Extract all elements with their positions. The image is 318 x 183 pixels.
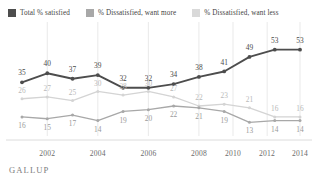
data-label: 23 [220, 92, 227, 100]
legend-label-total-satisfied: Total % satisfied [20, 9, 70, 18]
data-label: 39 [94, 62, 101, 70]
series-point [299, 115, 302, 118]
data-label: 21 [195, 113, 202, 121]
series-point [273, 115, 276, 118]
data-label: 14 [296, 126, 303, 134]
series-point [96, 90, 99, 93]
source-label: GALLUP [9, 165, 50, 175]
series-point [248, 106, 251, 109]
series-point [21, 115, 24, 118]
legend-label-want-more: % Dissatisfied, want more [98, 9, 176, 18]
legend-item-total-satisfied: Total % satisfied [8, 9, 70, 18]
x-tick-label: 2014 [292, 149, 308, 158]
series-line [22, 50, 300, 88]
series-point [71, 114, 74, 117]
series-point [222, 70, 226, 74]
data-label: 16 [18, 122, 25, 130]
data-label: 25 [69, 89, 76, 97]
data-label: 22 [195, 94, 202, 102]
x-tick-label: 2010 [225, 149, 241, 158]
data-label: 27 [44, 85, 51, 93]
data-label: 14 [271, 126, 278, 134]
legend-swatch-want-less [192, 9, 200, 17]
series-line [22, 91, 300, 116]
data-label: 19 [119, 117, 126, 125]
series-point [223, 110, 226, 113]
data-label: 16 [271, 105, 278, 113]
series-point [248, 55, 252, 59]
series-point [172, 95, 175, 98]
data-label: 30 [94, 80, 101, 88]
series-point [273, 119, 276, 122]
series-point [299, 119, 302, 122]
data-label: 16 [296, 105, 303, 113]
series-point [298, 48, 302, 52]
series-point [122, 94, 125, 97]
chart-x-axis: 2002200420062008201020122014 [0, 146, 318, 164]
series-point [147, 90, 150, 93]
series-line [22, 106, 300, 122]
data-label: 26 [18, 87, 25, 95]
x-tick-label: 2012 [259, 149, 275, 158]
data-label: 49 [246, 44, 253, 52]
gallup-line-chart: Total % satisfied % Dissatisfied, want m… [0, 0, 318, 183]
data-label: 34 [170, 71, 177, 79]
data-label: 28 [119, 83, 126, 91]
x-tick-label: 2008 [191, 149, 207, 158]
data-label: 21 [246, 96, 253, 104]
data-label: 32 [145, 75, 152, 83]
legend-swatch-total-satisfied [8, 9, 16, 17]
series-point [197, 106, 200, 109]
legend-item-want-less: % Dissatisfied, want less [192, 9, 278, 18]
series-point [96, 119, 99, 122]
series-point [273, 48, 277, 52]
data-label: 19 [220, 117, 227, 125]
data-label: 41 [220, 59, 227, 67]
chart-plot-area: 2627253028302722232116161615171419202221… [0, 22, 318, 146]
data-label: 27 [170, 85, 177, 93]
x-tick-label: 2004 [90, 149, 106, 158]
chart-legend: Total % satisfied % Dissatisfied, want m… [8, 5, 314, 21]
data-label: 40 [44, 60, 51, 68]
data-label: 38 [195, 64, 202, 72]
data-label: 15 [44, 124, 51, 132]
data-label: 22 [170, 111, 177, 119]
series-point [46, 117, 49, 120]
legend-swatch-want-more [86, 9, 94, 17]
data-label: 37 [69, 66, 76, 74]
series-point [21, 97, 24, 100]
series-point [248, 121, 251, 124]
series-point [96, 73, 100, 77]
data-label: 53 [271, 37, 278, 45]
data-label: 53 [296, 37, 303, 45]
legend-item-want-more: % Dissatisfied, want more [86, 9, 176, 18]
x-tick-label: 2006 [140, 149, 156, 158]
series-point [197, 75, 201, 79]
data-label: 14 [94, 126, 101, 134]
series-point [71, 77, 75, 81]
data-label: 17 [69, 120, 76, 128]
series-point [223, 103, 226, 106]
x-tick-label: 2002 [39, 149, 55, 158]
chart-gridlines [6, 22, 312, 140]
data-label: 35 [18, 69, 25, 77]
data-label: 32 [119, 75, 126, 83]
series-point [71, 99, 74, 102]
legend-label-want-less: % Dissatisfied, want less [204, 9, 278, 18]
series-point [122, 110, 125, 113]
data-label: 20 [145, 115, 152, 123]
chart-series-layer [20, 48, 302, 124]
data-label: 13 [246, 127, 253, 135]
series-point [46, 95, 49, 98]
series-point [172, 105, 175, 108]
series-point [20, 80, 24, 84]
series-point [147, 108, 150, 111]
series-point [45, 71, 49, 75]
